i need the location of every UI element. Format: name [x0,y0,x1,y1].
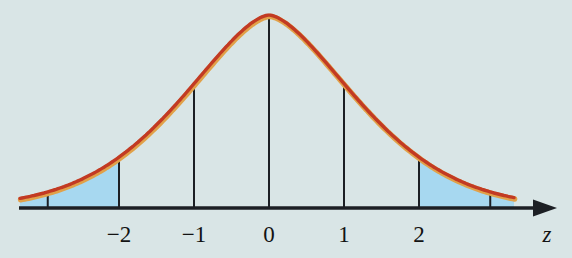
axis-arrowhead-icon [533,200,557,217]
normal-curve-chart: −2−1012z [0,0,572,258]
shaded-tail-region-left [20,157,119,208]
tick-label-2: 2 [413,222,425,247]
normal-curve [20,15,514,198]
tick-label--1: −1 [182,222,206,247]
tick-label-0: 0 [263,222,275,247]
tick-label--2: −2 [107,222,131,247]
normal-distribution-figure: −2−1012z [0,0,572,258]
z-axis-label: z [542,222,552,247]
tick-label-1: 1 [338,222,350,247]
